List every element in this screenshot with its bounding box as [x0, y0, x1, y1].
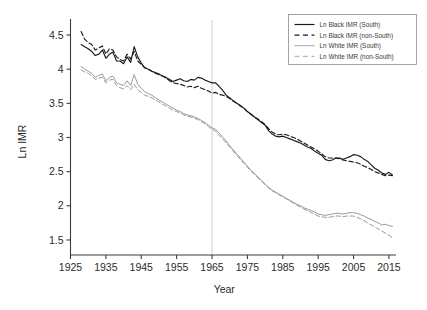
x-tick-label: 1935 — [94, 261, 118, 273]
x-tick-label: 1995 — [306, 261, 330, 273]
legend-label[interactable]: Ln White IMR (South) — [320, 42, 381, 50]
y-tick-label: 3 — [58, 131, 64, 143]
legend-label[interactable]: Ln White IMR (non-South) — [320, 53, 394, 61]
y-tick-label: 4 — [58, 63, 64, 75]
y-tick-label: 2 — [58, 199, 64, 211]
x-tick-label: 1955 — [165, 261, 189, 273]
chart-figure: 1.522.533.544.51925193519451955196519751… — [0, 0, 427, 310]
legend-label[interactable]: Ln Black IMR (South) — [320, 21, 381, 29]
x-axis-title: Year — [214, 283, 236, 295]
legend-label[interactable]: Ln Black IMR (non-South) — [320, 32, 394, 40]
x-tick-label: 1945 — [130, 261, 154, 273]
x-tick-label: 2005 — [342, 261, 366, 273]
x-tick-label: 2015 — [377, 261, 401, 273]
y-axis-title: Ln IMR — [16, 124, 28, 158]
x-tick-label: 1925 — [59, 261, 83, 273]
x-tick-label: 1975 — [236, 261, 260, 273]
y-tick-label: 4.5 — [49, 29, 64, 41]
chart-legend[interactable]: Ln Black IMR (South)Ln Black IMR (non-So… — [289, 15, 417, 65]
line-chart: 1.522.533.544.51925193519451955196519751… — [0, 0, 427, 310]
x-tick-label: 1985 — [271, 261, 295, 273]
x-tick-label: 1965 — [200, 261, 224, 273]
y-tick-label: 3.5 — [49, 97, 64, 109]
y-tick-label: 2.5 — [49, 165, 64, 177]
y-tick-label: 1.5 — [49, 234, 64, 246]
